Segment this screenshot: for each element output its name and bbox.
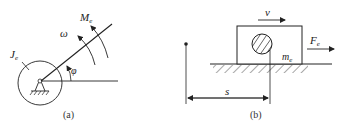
- label-J: Je: [10, 48, 18, 62]
- label-M: Me: [79, 11, 92, 25]
- moment-arrow-icon: [91, 26, 108, 58]
- caption-a: (a): [63, 109, 74, 121]
- figure-b: v Fe me s (b): [184, 6, 334, 121]
- label-omega: ω: [60, 27, 68, 39]
- label-F: Fe: [309, 34, 320, 48]
- label-v: v: [265, 6, 270, 18]
- label-s: s: [225, 85, 229, 97]
- label-phi: φ: [71, 65, 77, 76]
- diagram-canvas: Je Me ω φ (a) v Fe me s: [0, 0, 341, 135]
- ground-hatch: [213, 65, 308, 73]
- figure-a: Je Me ω φ (a): [10, 11, 118, 121]
- caption-b: (b): [250, 109, 262, 121]
